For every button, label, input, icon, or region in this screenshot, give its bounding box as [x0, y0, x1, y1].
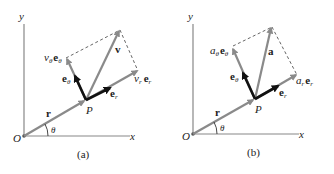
y-axis-label: y [187, 10, 193, 22]
y-axis-label: y [18, 10, 24, 22]
origin-label: O [182, 130, 190, 142]
point-label: P [254, 103, 262, 115]
unit-vector-etheta [75, 76, 86, 100]
r-label: r [46, 107, 51, 119]
origin-label: O [13, 132, 21, 144]
polar-components-figure: y x O P θ r v vrer vθeθ er eθ (a) y x O … [0, 0, 334, 174]
dashed-guide-right [272, 27, 297, 75]
point-label: P [85, 104, 93, 116]
v-label: v [115, 43, 121, 55]
x-axis-label: x [129, 130, 135, 142]
theta-label: θ [51, 125, 56, 135]
panel-b-acceleration: y x O P θ r a arer aθeθ er eθ (b) [182, 10, 313, 159]
x-axis-label: x [298, 128, 304, 140]
theta-arc [45, 124, 48, 136]
radial-component-label: arer [296, 74, 313, 88]
unit-vector-etheta [243, 73, 255, 99]
er-label: er [279, 86, 287, 100]
etheta-label: eθ [230, 70, 239, 84]
a-label: a [268, 45, 274, 57]
etheta-label: eθ [62, 72, 71, 86]
er-label: er [110, 87, 118, 101]
transverse-component-label: vθeθ [44, 51, 62, 65]
transverse-component-label: aθeθ [210, 44, 229, 58]
acceleration-vector-a [255, 28, 271, 99]
theta-arc [214, 122, 217, 134]
dashed-guide-right [120, 30, 138, 71]
caption-b: (b) [247, 146, 260, 159]
dashed-guide-top [233, 27, 272, 46]
radial-component-label: vrer [134, 72, 152, 86]
theta-label: θ [220, 123, 225, 133]
r-label: r [215, 106, 220, 118]
panel-a-velocity: y x O P θ r v vrer vθeθ er eθ (a) [13, 10, 152, 161]
caption-a: (a) [77, 148, 90, 161]
